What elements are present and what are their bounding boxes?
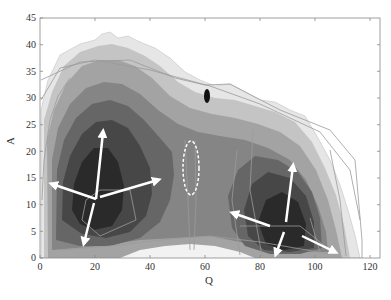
y-tick-labels: 0 5 10 15 20 25 30 35 40 45 <box>26 12 36 263</box>
svg-text:15: 15 <box>26 172 36 183</box>
svg-text:10: 10 <box>26 199 36 210</box>
svg-text:25: 25 <box>26 119 36 130</box>
svg-text:0: 0 <box>31 252 36 263</box>
svg-text:120: 120 <box>363 261 378 272</box>
svg-text:0: 0 <box>38 261 43 272</box>
svg-text:80: 80 <box>255 261 265 272</box>
svg-text:20: 20 <box>26 146 36 157</box>
dark-spot <box>204 89 210 103</box>
svg-text:30: 30 <box>26 92 36 103</box>
svg-text:5: 5 <box>31 226 36 237</box>
x-tick-labels: 0 20 40 60 80 100 120 <box>38 261 378 272</box>
x-axis-label: Q <box>205 274 213 286</box>
svg-text:40: 40 <box>26 39 36 50</box>
svg-text:35: 35 <box>26 66 36 77</box>
contour-chart: 0 20 40 60 80 100 120 Q 0 5 10 15 20 25 … <box>0 0 391 300</box>
svg-text:100: 100 <box>308 261 323 272</box>
svg-text:20: 20 <box>90 261 100 272</box>
svg-text:45: 45 <box>26 12 36 23</box>
y-axis-label: A <box>4 137 16 145</box>
svg-text:40: 40 <box>145 261 155 272</box>
svg-text:60: 60 <box>200 261 210 272</box>
